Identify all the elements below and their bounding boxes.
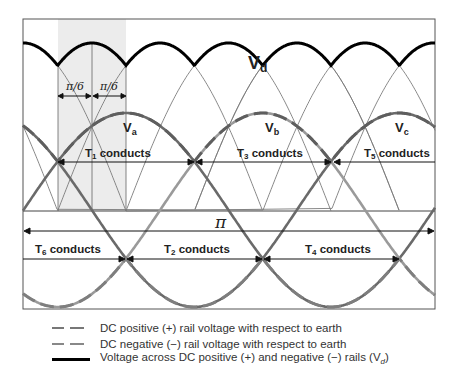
legend-label: Voltage across DC positive (+) and negat… bbox=[100, 349, 389, 370]
legend-label: DC positive (+) rail voltage with respec… bbox=[100, 320, 342, 336]
t5-conducts-label: T5 conducts bbox=[364, 147, 430, 161]
pi-arrow bbox=[24, 228, 434, 234]
legend-item-vd: Voltage across DC positive (+) and negat… bbox=[52, 352, 389, 368]
vb-label: Vb bbox=[265, 120, 280, 137]
lower-conduction-arrows bbox=[23, 256, 399, 262]
pi-label: π bbox=[214, 212, 227, 232]
dashed-dark-line-swatch bbox=[52, 324, 92, 332]
solid-black-line-swatch bbox=[52, 356, 92, 364]
t4-conducts-label: T4 conducts bbox=[305, 243, 371, 257]
pi-over-6-label-right: π/6 bbox=[99, 80, 118, 93]
pi-over-6-label-left: π/6 bbox=[65, 80, 84, 93]
rectifier-waveform-diagram: π/6 π/6 π Vd Va Vb Vc T1 conducts T3 con… bbox=[0, 0, 456, 375]
va-label: Va bbox=[123, 120, 138, 137]
dashed-light-line-swatch bbox=[52, 340, 92, 348]
vc-label: Vc bbox=[395, 120, 409, 137]
t3-conducts-label: T3 conducts bbox=[237, 147, 303, 161]
vd-label: Vd bbox=[248, 53, 267, 75]
legend-item-positive-rail: DC positive (+) rail voltage with respec… bbox=[52, 320, 389, 336]
legend: DC positive (+) rail voltage with respec… bbox=[52, 320, 389, 368]
t2-conducts-label: T2 conducts bbox=[164, 243, 230, 257]
t6-conducts-label: T6 conducts bbox=[35, 243, 101, 257]
